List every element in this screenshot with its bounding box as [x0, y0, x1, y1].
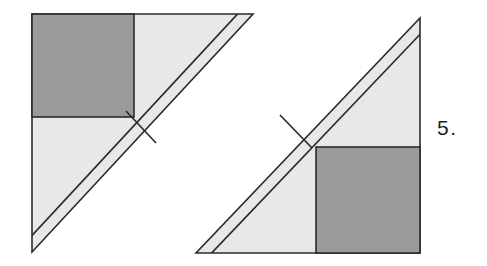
left-dark-square	[32, 14, 134, 117]
right-tick-mark	[280, 115, 312, 148]
item-number-label: 5.	[437, 117, 458, 138]
right-triangle-group	[188, 10, 428, 261]
figure-canvas: 5.	[0, 0, 487, 266]
geometry-figure-pair	[0, 0, 487, 266]
right-dark-square	[316, 147, 420, 253]
